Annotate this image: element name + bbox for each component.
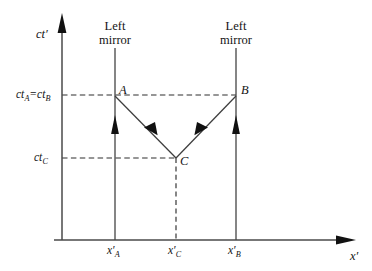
right-mirror-arrowhead xyxy=(232,115,240,134)
x-prime-axis-arrowhead xyxy=(336,236,356,245)
event-label-C: C xyxy=(180,155,188,168)
event-label-B: B xyxy=(241,84,249,97)
tick-label-ct-A-equals-ct-B: ctA=ctB xyxy=(16,89,51,103)
left-mirror-caption: Left mirror xyxy=(85,20,145,47)
tick-label-x-prime-B: x′B xyxy=(228,245,241,259)
tick-label-x-prime-A: x′A xyxy=(107,245,120,259)
ray-C-to-B-arrowhead xyxy=(194,122,208,135)
ct-prime-axis-arrowhead xyxy=(58,13,67,33)
spacetime-diagram-figure: ct′ x′ Left mirror Left mirror A B C ctA… xyxy=(0,0,372,271)
ct-prime-axis-label: ct′ xyxy=(36,28,48,41)
diagram-canvas xyxy=(0,0,372,271)
right-mirror-caption: Left mirror xyxy=(206,20,266,47)
left-mirror-arrowhead xyxy=(111,115,119,134)
x-prime-axis-label: x′ xyxy=(350,250,358,263)
event-label-A: A xyxy=(119,84,127,97)
tick-label-ct-C: ctC xyxy=(34,152,48,166)
tick-label-x-prime-C: x′C xyxy=(168,245,181,259)
